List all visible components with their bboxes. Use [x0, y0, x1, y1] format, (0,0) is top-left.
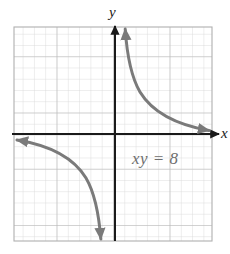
x-axis-label: x — [221, 126, 228, 141]
coordinate-plane-svg — [0, 0, 230, 254]
graph-figure: y x xy = 8 — [0, 0, 230, 254]
y-axis-label: y — [109, 5, 116, 20]
equation-label: xy = 8 — [132, 150, 179, 167]
